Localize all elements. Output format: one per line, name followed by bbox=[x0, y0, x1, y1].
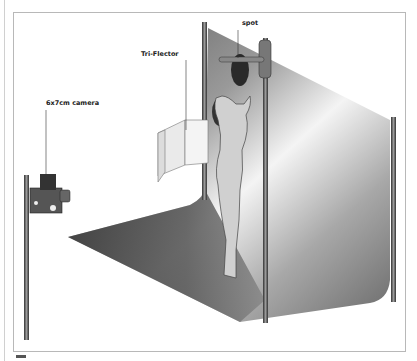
spot-stand-pole bbox=[263, 38, 268, 323]
backdrop-pole-right bbox=[391, 117, 396, 302]
camera bbox=[30, 174, 70, 213]
label-camera: 6x7cm camera bbox=[46, 99, 99, 107]
label-spot: spot bbox=[242, 19, 258, 27]
camera-stand-pole bbox=[24, 175, 29, 340]
lighting-diagram bbox=[0, 0, 417, 361]
backdrop-pole-left bbox=[202, 22, 207, 200]
label-tri-flector: Tri-Flector bbox=[141, 50, 179, 58]
tri-flector bbox=[158, 120, 208, 182]
